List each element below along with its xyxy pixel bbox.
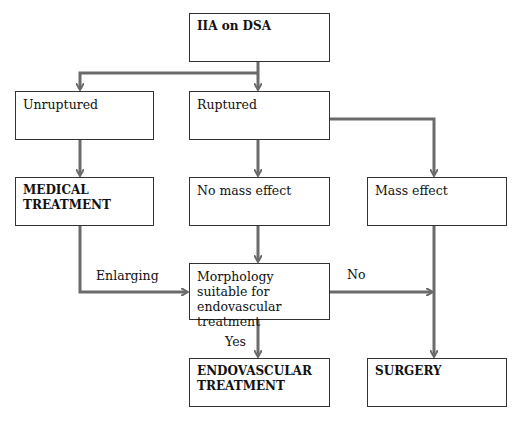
node-unruptured: Unruptured [15,91,154,140]
node-root: IIA on DSA [189,13,330,62]
label-enlarging: Enlarging [96,268,159,283]
node-no-mass-effect: No mass effect [189,177,330,226]
node-medical-treatment: MEDICAL TREATMENT [15,177,154,226]
node-ruptured: Ruptured [189,91,330,140]
node-morphology: Morphology suitable for endovascular tre… [189,263,330,320]
label-no: No [347,267,365,282]
node-surgery: SURGERY [367,358,507,407]
edge-root-unruptured [80,73,258,89]
label-yes: Yes [225,334,246,349]
node-mass-effect: Mass effect [367,177,507,226]
node-endovascular-treatment: ENDOVASCULAR TREATMENT [189,358,330,407]
edge-ruptured-mass [330,119,434,175]
